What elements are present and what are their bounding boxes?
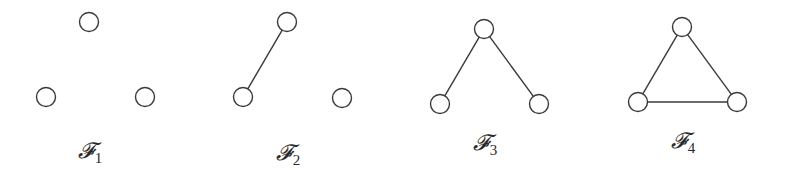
- label-f3: 𝓕3: [473, 132, 498, 154]
- vertex: [80, 13, 99, 32]
- label-f3-main: 𝓕: [473, 130, 489, 155]
- vertex: [136, 88, 155, 107]
- graph-f4: [629, 18, 747, 112]
- label-f3-sub: 3: [490, 142, 498, 158]
- label-f4-sub: 4: [688, 140, 696, 156]
- vertex: [530, 95, 549, 114]
- label-f2-main: 𝓕: [276, 140, 292, 165]
- edge: [643, 35, 677, 94]
- edge: [688, 35, 732, 95]
- label-f2-sub: 2: [293, 152, 301, 168]
- vertex: [37, 88, 56, 107]
- vertex: [234, 88, 253, 107]
- graph-family-diagram: 𝓕1 𝓕2 𝓕3 𝓕4: [0, 0, 786, 170]
- vertex: [475, 20, 494, 39]
- label-f1-main: 𝓕: [78, 138, 94, 163]
- vertex: [278, 13, 297, 32]
- vertex: [629, 93, 648, 112]
- vertex: [728, 93, 747, 112]
- label-f2: 𝓕2: [276, 142, 301, 164]
- graph-f3: [431, 20, 549, 114]
- vertex: [673, 18, 692, 37]
- edge: [445, 37, 479, 96]
- vertex: [431, 95, 450, 114]
- vertex: [333, 89, 352, 108]
- label-f1-sub: 1: [95, 150, 103, 166]
- label-f4: 𝓕4: [671, 130, 696, 152]
- graphs-canvas: [0, 0, 786, 170]
- edge: [248, 30, 282, 89]
- label-f1: 𝓕1: [78, 140, 103, 162]
- graph-f1: [37, 13, 155, 107]
- graph-f2: [234, 13, 352, 108]
- label-f4-main: 𝓕: [671, 128, 687, 153]
- edge: [490, 37, 534, 97]
